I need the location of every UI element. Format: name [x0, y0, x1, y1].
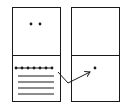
diagram-canvas [0, 0, 127, 108]
dot-row-marker [33, 67, 36, 70]
dot-row-marker [39, 67, 42, 70]
dot-row-marker [27, 67, 30, 70]
dot-row-marker [15, 67, 18, 70]
dot-row-marker [21, 67, 24, 70]
dot-marker [30, 23, 33, 26]
dot-marker [39, 23, 42, 26]
target-dot [94, 67, 97, 70]
right-panel [71, 8, 120, 102]
dot-row-marker [45, 67, 48, 70]
arrow-icon [58, 72, 90, 83]
dot-row-marker [51, 67, 54, 70]
right-panel-border [72, 8, 120, 102]
